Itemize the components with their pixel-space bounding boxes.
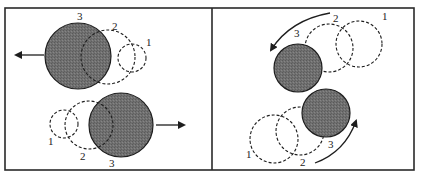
label-2: 2 xyxy=(300,156,306,168)
dashed-circle-position-1 xyxy=(118,44,146,72)
motion-diagram: 3 2 1 1 2 3 3 2 1 1 2 3 xyxy=(0,0,422,175)
shaded-circle-position-3 xyxy=(302,89,350,137)
dashed-circle-position-1 xyxy=(50,110,78,138)
label-2: 2 xyxy=(80,150,86,162)
label-1: 1 xyxy=(246,148,252,160)
right-top-group: 3 2 1 xyxy=(271,10,388,92)
label-3: 3 xyxy=(294,27,300,39)
left-bottom-group: 1 2 3 xyxy=(48,93,184,169)
label-1: 1 xyxy=(48,135,54,147)
label-3: 3 xyxy=(77,10,83,22)
right-bottom-group: 1 2 3 xyxy=(246,89,356,168)
shaded-circle-position-3 xyxy=(45,23,111,89)
label-2: 2 xyxy=(112,20,118,32)
label-2: 2 xyxy=(333,12,339,24)
label-1: 1 xyxy=(146,36,152,48)
label-3: 3 xyxy=(328,138,334,150)
left-top-group: 3 2 1 xyxy=(16,10,152,89)
label-1: 1 xyxy=(382,10,388,22)
dashed-circle-position-1 xyxy=(250,115,298,163)
shaded-circle-position-3 xyxy=(274,44,322,92)
label-3: 3 xyxy=(109,157,115,169)
